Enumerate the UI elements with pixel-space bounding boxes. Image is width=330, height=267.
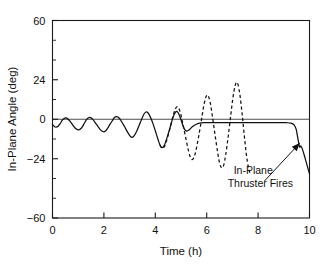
y-tick-label: −24 [27,153,46,165]
x-tick-label: 6 [204,224,210,236]
x-tick-label: 10 [303,224,315,236]
x-tick-label: 8 [255,224,261,236]
x-axis-tick-labels: 0246810 [49,224,315,236]
chart-figure: −60−2402460 0246810 In-Plane Thruster Fi… [0,0,330,267]
annotation-line-2: Thruster Fires [228,177,293,189]
y-axis-title: In-Plane Angle (deg) [6,66,18,171]
x-tick-label: 0 [49,224,55,236]
y-tick-label: 0 [39,113,45,125]
y-tick-label: −60 [27,212,46,224]
y-tick-label: 60 [33,15,45,27]
x-tick-label: 4 [152,224,158,236]
x-axis-title: Time (h) [160,245,203,257]
y-axis-tick-labels: −60−2402460 [27,15,46,225]
in-plane-angle-vs-time-chart: −60−2402460 0246810 In-Plane Thruster Fi… [0,0,330,267]
y-tick-label: 24 [33,74,45,86]
annotation-line-1: In-Plane [234,164,273,176]
x-tick-label: 2 [101,224,107,236]
